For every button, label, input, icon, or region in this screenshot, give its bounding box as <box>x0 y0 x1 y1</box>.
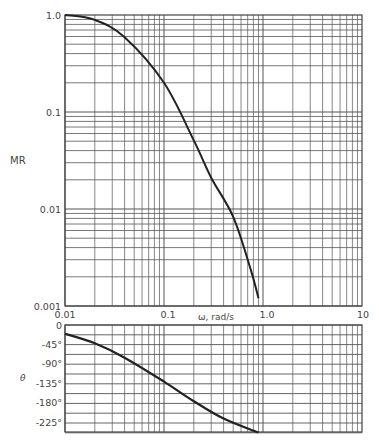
mr-tick-0.1: 0.1 <box>46 107 61 118</box>
phase-angle-curve <box>65 334 259 433</box>
theta-tick-45: -45° <box>42 339 62 350</box>
bode-chart: 1.0 0.1 0.01 0.001 0.01 0.1 1.0 10 ω, ra… <box>0 0 379 444</box>
theta-axis-label: θ <box>20 373 26 383</box>
magnitude-ratio-curve <box>65 15 259 298</box>
theta-tick-135: -135° <box>36 378 62 389</box>
theta-tick-90: -90° <box>42 358 62 369</box>
theta-tick-0: 0 <box>56 320 62 331</box>
mr-tick-1: 1.0 <box>46 10 61 21</box>
x-tick-10: 10 <box>357 309 369 320</box>
x-tick-0.1: 0.1 <box>160 309 175 320</box>
mr-tick-0.01: 0.01 <box>40 204 61 215</box>
phase-grid <box>65 325 362 433</box>
omega-axis-label: ω, rad/s <box>198 312 234 322</box>
magnitude-plot-frame <box>65 15 362 306</box>
x-tick-1.0: 1.0 <box>259 309 274 320</box>
theta-tick-225: -225° <box>36 417 62 428</box>
theta-tick-180: -180° <box>36 397 62 408</box>
magnitude-grid <box>65 15 362 306</box>
phase-plot-frame <box>65 325 362 432</box>
x-tick-0.01: 0.01 <box>54 309 75 320</box>
mr-axis-label: MR <box>10 155 26 166</box>
